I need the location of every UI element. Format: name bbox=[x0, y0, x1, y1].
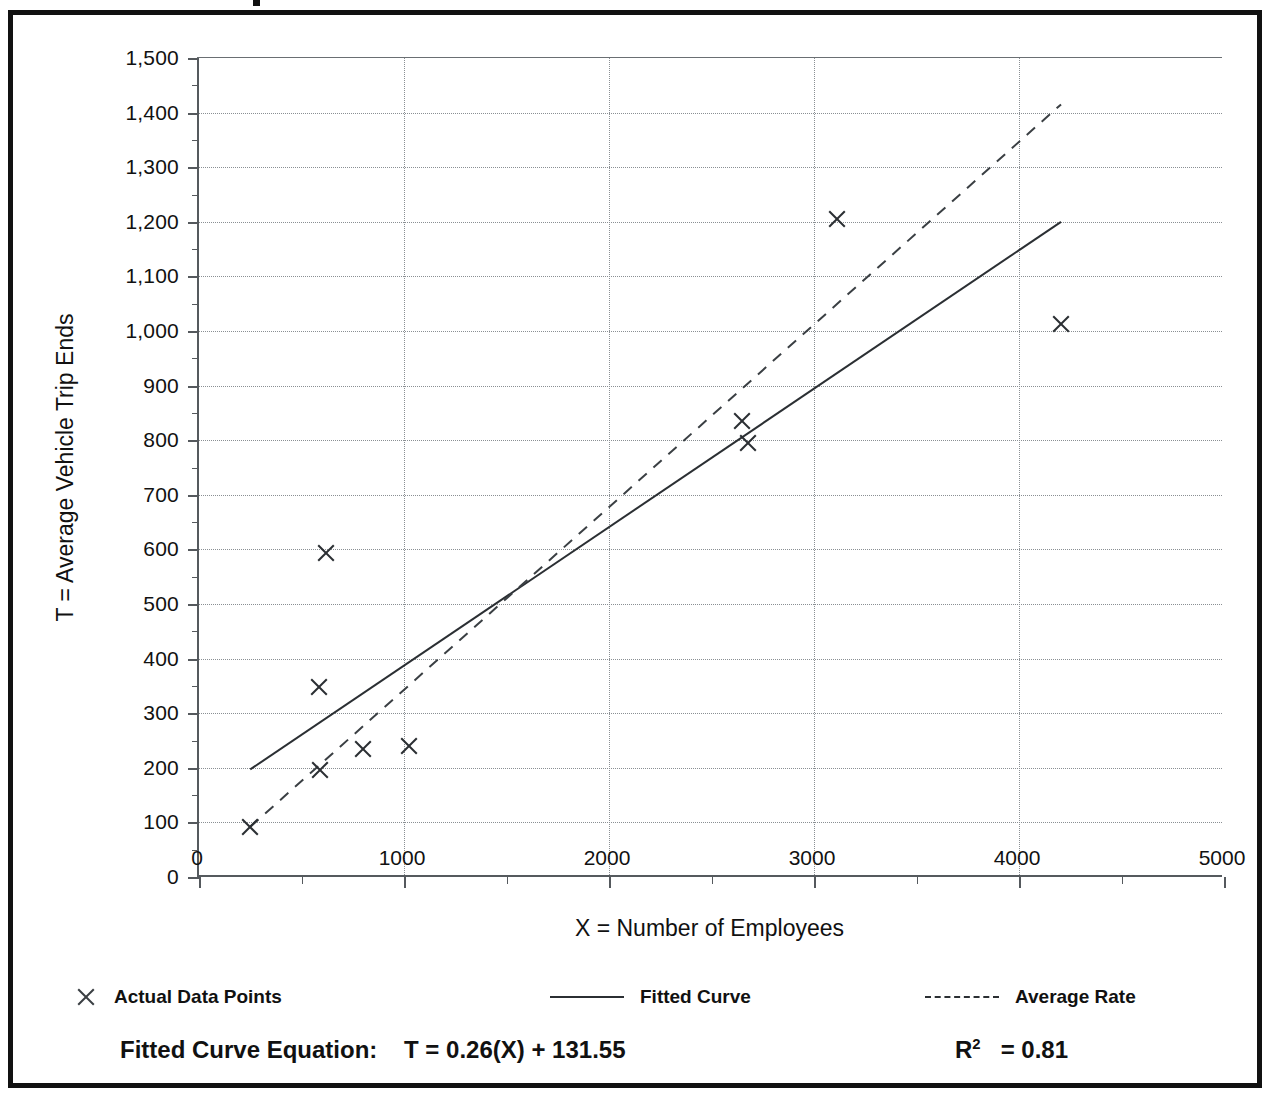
y-tick-minor bbox=[192, 522, 199, 523]
x-tick-major bbox=[1224, 877, 1226, 888]
y-tick-major bbox=[188, 768, 199, 770]
chart-stage: T = Average Vehicle Trip Ends X = Number… bbox=[0, 0, 1272, 1099]
y-axis-title-text: T = Average Vehicle Trip Ends bbox=[53, 314, 80, 622]
y-tick-label: 1,100 bbox=[0, 264, 179, 288]
y-tick-major bbox=[188, 276, 199, 278]
x-tick-minor bbox=[712, 877, 713, 884]
x-tick-major bbox=[609, 877, 611, 888]
y-tick-minor bbox=[192, 140, 199, 141]
y-tick-label: 1,400 bbox=[0, 101, 179, 125]
y-tick-minor bbox=[192, 468, 199, 469]
y-tick-major bbox=[188, 713, 199, 715]
plot-area bbox=[197, 58, 1222, 877]
legend-label-fitted-curve: Fitted Curve bbox=[640, 986, 751, 1008]
x-tick-label: 3000 bbox=[789, 846, 836, 870]
legend-label-average-rate: Average Rate bbox=[1015, 986, 1136, 1008]
solid-line-icon bbox=[550, 985, 624, 1009]
y-tick-label: 400 bbox=[0, 647, 179, 671]
y-tick-major bbox=[188, 877, 199, 879]
y-tick-label: 600 bbox=[0, 537, 179, 561]
x-axis-title: X = Number of Employees bbox=[197, 915, 1222, 942]
series-lines bbox=[199, 58, 1224, 877]
y-tick-minor bbox=[192, 686, 199, 687]
x-tick-minor bbox=[1122, 877, 1123, 884]
y-tick-minor bbox=[192, 85, 199, 86]
equation-value: T = 0.26(X) + 131.55 bbox=[404, 1036, 625, 1063]
x-tick-major bbox=[199, 877, 201, 888]
x-tick-major bbox=[404, 877, 406, 888]
y-tick-label: 1,200 bbox=[0, 210, 179, 234]
y-tick-minor bbox=[192, 741, 199, 742]
dashed-line-icon bbox=[925, 985, 999, 1009]
x-tick-label: 4000 bbox=[994, 846, 1041, 870]
y-tick-label: 800 bbox=[0, 428, 179, 452]
fitted-curve-equation: Fitted Curve Equation: T = 0.26(X) + 131… bbox=[120, 1036, 626, 1064]
y-tick-label: 500 bbox=[0, 592, 179, 616]
r-squared-number: = 0.81 bbox=[1001, 1036, 1068, 1063]
x-tick-major bbox=[814, 877, 816, 888]
x-marker-icon bbox=[74, 985, 98, 1009]
legend-item-actual-data-points: Actual Data Points bbox=[74, 980, 282, 1014]
y-tick-major bbox=[188, 549, 199, 551]
fitted-curve-line bbox=[250, 222, 1061, 770]
legend-item-average-rate: Average Rate bbox=[925, 980, 1136, 1014]
x-tick-label: 2000 bbox=[584, 846, 631, 870]
y-tick-label: 300 bbox=[0, 701, 179, 725]
y-tick-label: 700 bbox=[0, 483, 179, 507]
y-tick-minor bbox=[192, 631, 199, 632]
y-tick-major bbox=[188, 604, 199, 606]
y-tick-label: 900 bbox=[0, 374, 179, 398]
y-tick-label: 1,300 bbox=[0, 155, 179, 179]
y-tick-minor bbox=[192, 195, 199, 196]
x-tick-label: 5000 bbox=[1199, 846, 1246, 870]
x-axis-title-text: X = Number of Employees bbox=[575, 915, 844, 941]
y-tick-major bbox=[188, 113, 199, 115]
legend-item-fitted-curve: Fitted Curve bbox=[550, 980, 751, 1014]
average-rate-line bbox=[250, 104, 1061, 826]
x-tick-minor bbox=[917, 877, 918, 884]
y-axis-title: T = Average Vehicle Trip Ends bbox=[48, 58, 84, 877]
y-tick-major bbox=[188, 386, 199, 388]
r-squared-value: R2 = 0.81 bbox=[955, 1036, 1068, 1064]
r-squared-exponent: 2 bbox=[972, 1036, 980, 1052]
y-tick-major bbox=[188, 222, 199, 224]
y-tick-label: 100 bbox=[0, 810, 179, 834]
y-tick-minor bbox=[192, 577, 199, 578]
y-tick-major bbox=[188, 167, 199, 169]
y-tick-minor bbox=[192, 795, 199, 796]
equation-label: Fitted Curve Equation: bbox=[120, 1036, 377, 1063]
y-tick-minor bbox=[192, 304, 199, 305]
y-tick-label: 1,500 bbox=[0, 46, 179, 70]
chart-footnote: Fitted Curve Equation: T = 0.26(X) + 131… bbox=[60, 1032, 1220, 1076]
chart-legend: Actual Data Points Fitted Curve Average … bbox=[60, 980, 1220, 1020]
x-tick-major bbox=[1019, 877, 1021, 888]
y-tick-major bbox=[188, 440, 199, 442]
x-tick-minor bbox=[507, 877, 508, 884]
y-tick-label: 1,000 bbox=[0, 319, 179, 343]
y-tick-label: 0 bbox=[0, 865, 179, 889]
y-tick-label: 200 bbox=[0, 756, 179, 780]
y-tick-minor bbox=[192, 413, 199, 414]
y-tick-major bbox=[188, 495, 199, 497]
y-tick-major bbox=[188, 822, 199, 824]
x-tick-minor bbox=[302, 877, 303, 884]
legend-label-actual-data-points: Actual Data Points bbox=[114, 986, 282, 1008]
y-tick-minor bbox=[192, 358, 199, 359]
r-squared-symbol: R bbox=[955, 1036, 972, 1063]
y-tick-minor bbox=[192, 249, 199, 250]
y-tick-major bbox=[188, 58, 199, 60]
chart-page: T = Average Vehicle Trip Ends X = Number… bbox=[0, 0, 1272, 1099]
y-tick-major bbox=[188, 331, 199, 333]
x-tick-label: 1000 bbox=[379, 846, 426, 870]
x-tick-label: 0 bbox=[191, 846, 203, 870]
y-tick-major bbox=[188, 659, 199, 661]
